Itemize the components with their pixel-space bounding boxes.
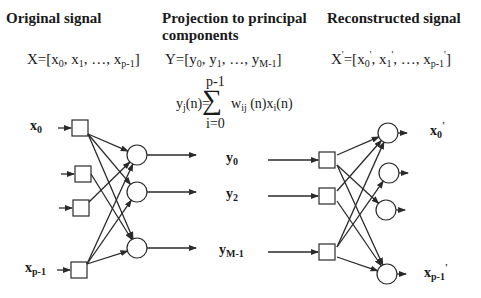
hidden-node-box bbox=[319, 152, 335, 168]
weight-connection-arrow bbox=[337, 141, 381, 191]
output-neuron-circle bbox=[378, 123, 398, 143]
output-neuron-circle bbox=[379, 163, 399, 183]
weight-connection-arrow bbox=[89, 162, 130, 202]
output-neuron-circle bbox=[377, 264, 397, 284]
weight-connection-arrow bbox=[337, 257, 378, 271]
hidden-neuron-circle bbox=[127, 238, 147, 258]
input-node-box bbox=[72, 120, 88, 136]
weight-connection-arrow bbox=[337, 137, 379, 155]
input-node-box bbox=[71, 262, 87, 278]
weight-connection-arrow bbox=[87, 251, 127, 264]
output-neuron-circle bbox=[376, 200, 396, 220]
weight-connection-arrow bbox=[88, 134, 131, 184]
hidden-neuron-circle bbox=[127, 182, 147, 202]
hidden-node-box bbox=[319, 244, 335, 260]
weight-connection-arrow bbox=[337, 142, 384, 247]
weight-connection-arrow bbox=[87, 200, 131, 264]
hidden-node-box bbox=[319, 188, 335, 204]
network-diagram bbox=[0, 0, 481, 298]
hidden-neuron-circle bbox=[127, 145, 147, 165]
input-node-box bbox=[73, 200, 89, 216]
input-node-box bbox=[75, 166, 91, 182]
